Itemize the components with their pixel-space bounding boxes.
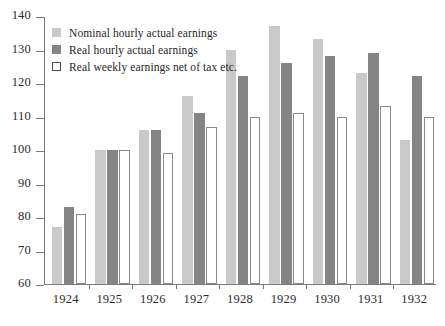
bar-chart: 60708090100110120130140 1924192519261927…: [0, 0, 445, 326]
bar-nominal-1932: [400, 140, 411, 284]
y-axis-tick-label: 70: [18, 243, 31, 258]
x-axis-tick-mark: [219, 284, 220, 289]
y-axis-tick-mark: [36, 185, 44, 186]
x-axis-tick-mark: [350, 284, 351, 289]
x-axis-label-1927: 1927: [175, 292, 219, 307]
y-axis-tick-mark: [36, 118, 44, 119]
x-axis-label-1928: 1928: [218, 292, 262, 307]
bar-realhour-1930: [325, 56, 336, 284]
legend-swatch-icon-nominal: [52, 28, 61, 37]
bar-realweek-1927: [206, 127, 217, 284]
bar-nominal-1931: [356, 73, 367, 284]
legend-item-realhour: Real hourly actual earnings: [52, 42, 302, 57]
x-axis-label-1932: 1932: [392, 292, 436, 307]
legend-swatch-icon-realweek: [52, 62, 61, 71]
legend-item-realweek: Real weekly earnings net of tax etc.: [52, 59, 302, 74]
y-axis-tick-label: 120: [12, 75, 31, 90]
x-axis-label-1931: 1931: [349, 292, 393, 307]
bar-realweek-1931: [380, 106, 391, 284]
y-axis-tick-label: 60: [18, 276, 31, 291]
y-axis-tick-mark: [36, 285, 44, 286]
x-axis-tick-mark: [306, 284, 307, 289]
bar-realweek-1930: [337, 117, 348, 285]
x-axis-label-1925: 1925: [88, 292, 132, 307]
x-axis-tick-mark: [132, 284, 133, 289]
bar-realweek-1925: [119, 150, 130, 284]
x-axis-label-1926: 1926: [131, 292, 175, 307]
bar-realweek-1926: [163, 153, 174, 284]
bar-nominal-1927: [182, 96, 193, 284]
x-axis-tick-mark: [176, 284, 177, 289]
y-axis-tick-label: 100: [12, 142, 31, 157]
y-axis-tick-mark: [36, 84, 44, 85]
bar-nominal-1930: [313, 39, 324, 284]
legend-label: Real hourly actual earnings: [69, 44, 198, 56]
bar-realhour-1932: [412, 76, 423, 284]
x-axis-label-1924: 1924: [44, 292, 88, 307]
y-axis-tick-label: 110: [12, 109, 31, 124]
y-axis-tick-label: 90: [18, 176, 31, 191]
x-axis-label-1929: 1929: [262, 292, 306, 307]
bar-realweek-1929: [293, 113, 304, 284]
bar-realweek-1928: [250, 117, 261, 285]
y-axis-tick-mark: [36, 51, 44, 52]
bar-realhour-1924: [64, 207, 75, 284]
x-axis-tick-mark: [393, 284, 394, 289]
bar-realhour-1927: [194, 113, 205, 284]
y-axis-tick-label: 140: [12, 8, 31, 23]
chart-legend: Nominal hourly actual earningsReal hourl…: [52, 25, 302, 76]
legend-item-nominal: Nominal hourly actual earnings: [52, 25, 302, 40]
legend-swatch-icon-realhour: [52, 45, 61, 54]
y-axis-tick-mark: [36, 151, 44, 152]
y-axis-tick-label: 80: [18, 209, 31, 224]
bar-nominal-1924: [52, 227, 63, 284]
bar-realhour-1926: [151, 130, 162, 284]
bar-nominal-1925: [95, 150, 106, 284]
bar-realhour-1928: [238, 76, 249, 284]
bar-realhour-1929: [281, 63, 292, 284]
bar-realhour-1931: [368, 53, 379, 284]
x-axis-tick-mark: [89, 284, 90, 289]
y-axis-tick-label: 130: [12, 42, 31, 57]
x-axis-label-1930: 1930: [305, 292, 349, 307]
legend-label: Nominal hourly actual earnings: [69, 27, 217, 39]
y-axis-tick-mark: [36, 17, 44, 18]
bar-realweek-1924: [76, 214, 87, 284]
bar-nominal-1926: [139, 130, 150, 284]
bar-realweek-1932: [424, 117, 435, 285]
y-axis-tick-mark: [36, 218, 44, 219]
legend-label: Real weekly earnings net of tax etc.: [69, 61, 237, 73]
x-axis-tick-mark: [263, 284, 264, 289]
bar-realhour-1925: [107, 150, 118, 284]
y-axis-tick-mark: [36, 252, 44, 253]
bar-nominal-1928: [226, 50, 237, 285]
